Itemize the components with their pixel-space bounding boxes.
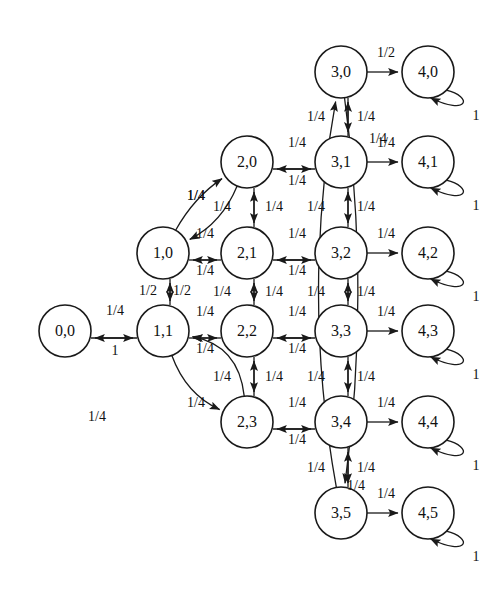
- state-node-31[interactable]: 3,1: [315, 136, 367, 188]
- edge-label: 1/4: [377, 135, 395, 150]
- edge-label: 1/4: [187, 395, 205, 410]
- state-node-00[interactable]: 0,0: [39, 305, 91, 357]
- edge-label: 1/4: [357, 460, 375, 475]
- edge-label: 1/4: [288, 263, 306, 278]
- edge-label: 1: [473, 549, 480, 564]
- edge-label: 1/4: [307, 369, 325, 384]
- node-label: 3,3: [331, 322, 351, 339]
- edge-label: 1/4: [377, 395, 395, 410]
- edge-label: 1/4: [213, 284, 231, 299]
- node-label: 2,1: [237, 244, 257, 261]
- edge-label: 1/2: [139, 283, 157, 298]
- node-label: 4,0: [418, 63, 438, 80]
- state-node-22[interactable]: 2,2: [221, 305, 273, 357]
- node-label: 4,2: [418, 244, 438, 261]
- edge-label: 1/4: [377, 486, 395, 501]
- state-node-40[interactable]: 4,0: [402, 46, 454, 98]
- node-label: 3,1: [331, 153, 351, 170]
- node-label: 3,0: [331, 63, 351, 80]
- state-diagram-canvas: 0,01,01,12,02,12,22,33,03,13,23,33,43,54…: [0, 0, 494, 597]
- node-label: 1,1: [153, 322, 173, 339]
- state-node-30[interactable]: 3,0: [315, 46, 367, 98]
- edge-label: 1: [473, 367, 480, 382]
- node-label: 4,1: [418, 153, 438, 170]
- edge-label: 1/4: [288, 395, 306, 410]
- edge-label: 1/4: [106, 303, 124, 318]
- edge-label: 1/4: [88, 409, 106, 424]
- node-label: 2,3: [237, 413, 257, 430]
- edge-label: 1/4: [196, 226, 214, 241]
- edge-label: 1: [473, 108, 480, 123]
- edge-label: 1: [473, 289, 480, 304]
- edge-label: 1: [473, 198, 480, 213]
- state-node-10[interactable]: 1,0: [137, 227, 189, 279]
- state-node-41[interactable]: 4,1: [402, 136, 454, 188]
- edge-label-layer: 1/411/21/21/41/41/41/41/41/41/41/41/41/4…: [88, 45, 479, 564]
- node-label: 1,0: [153, 244, 173, 261]
- edge-label: 1/4: [196, 304, 214, 319]
- edge-label: 1: [112, 343, 119, 358]
- edge-label: 1/4: [357, 369, 375, 384]
- edge-label: 1/4: [357, 284, 375, 299]
- edge-label: 1/4: [196, 263, 214, 278]
- state-node-45[interactable]: 4,5: [402, 487, 454, 539]
- edge-label: 1/4: [377, 226, 395, 241]
- edge-label: 1/4: [265, 284, 283, 299]
- edge-label: 1/4: [187, 188, 205, 203]
- edge-label: 1/4: [213, 199, 231, 214]
- edge-label: 1/4: [347, 478, 365, 493]
- state-node-44[interactable]: 4,4: [402, 396, 454, 448]
- node-layer: 0,01,01,12,02,12,22,33,03,13,23,33,43,54…: [39, 46, 454, 539]
- state-node-42[interactable]: 4,2: [402, 227, 454, 279]
- edge-label: 1/4: [307, 460, 325, 475]
- edge-label: 1/2: [173, 283, 191, 298]
- edge-label: 1: [473, 458, 480, 473]
- node-label: 0,0: [55, 322, 75, 339]
- edge-label: 1/4: [377, 304, 395, 319]
- state-node-20[interactable]: 2,0: [221, 136, 273, 188]
- node-label: 4,3: [418, 322, 438, 339]
- edge-label: 1/4: [307, 199, 325, 214]
- edge-label: 1/2: [377, 45, 395, 60]
- edge-label: 1/4: [196, 341, 214, 356]
- node-label: 2,0: [237, 153, 257, 170]
- state-diagram-svg: 0,01,01,12,02,12,22,33,03,13,23,33,43,54…: [0, 0, 494, 597]
- edge-label: 1/4: [307, 109, 325, 124]
- edge-layer: [91, 72, 463, 547]
- edge-label: 1/4: [265, 369, 283, 384]
- state-node-21[interactable]: 2,1: [221, 227, 273, 279]
- edge-label: 1/4: [357, 199, 375, 214]
- edge-label: 1/4: [288, 304, 306, 319]
- edge-label: 1/4: [288, 135, 306, 150]
- state-node-33[interactable]: 3,3: [315, 305, 367, 357]
- edge-label: 1/4: [265, 199, 283, 214]
- node-label: 3,2: [331, 244, 351, 261]
- state-node-34[interactable]: 3,4: [315, 396, 367, 448]
- edge-label: 1/4: [288, 341, 306, 356]
- edge-label: 1/4: [213, 369, 231, 384]
- node-label: 4,4: [418, 413, 438, 430]
- state-node-43[interactable]: 4,3: [402, 305, 454, 357]
- node-label: 4,5: [418, 504, 438, 521]
- edge-label: 1/4: [288, 226, 306, 241]
- state-node-23[interactable]: 2,3: [221, 396, 273, 448]
- node-label: 3,5: [331, 504, 351, 521]
- node-label: 3,4: [331, 413, 351, 430]
- state-node-32[interactable]: 3,2: [315, 227, 367, 279]
- state-node-35[interactable]: 3,5: [315, 487, 367, 539]
- state-node-11[interactable]: 1,1: [137, 305, 189, 357]
- edge-label: 1/4: [357, 109, 375, 124]
- node-label: 2,2: [237, 322, 257, 339]
- edge-label: 1/4: [288, 432, 306, 447]
- edge-label: 1/4: [288, 173, 306, 188]
- edge-label: 1/4: [307, 284, 325, 299]
